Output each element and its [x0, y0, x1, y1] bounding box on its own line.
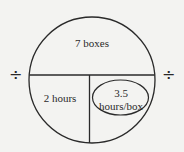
circle-diagram	[0, 0, 184, 152]
outer-circle	[29, 17, 155, 143]
bottom-right-label: 3.5 hours/box	[92, 87, 150, 113]
bottom-right-value: 3.5	[92, 87, 150, 100]
bottom-left-label: 2 hours	[34, 92, 86, 104]
divide-icon-right: ÷	[162, 67, 175, 83]
divide-icon-left: ÷	[9, 67, 22, 83]
diagram-canvas: 7 boxes 2 hours 3.5 hours/box ÷ ÷	[0, 0, 184, 152]
top-section-label: 7 boxes	[62, 37, 122, 49]
bottom-right-unit: hours/box	[92, 100, 150, 113]
